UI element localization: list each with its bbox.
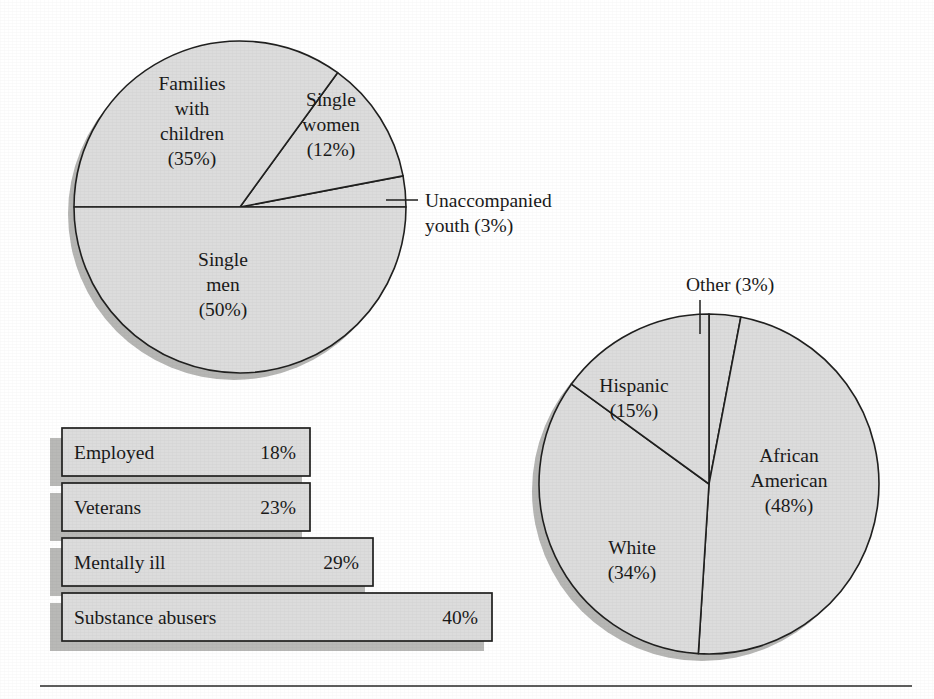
label-line: women: [302, 114, 360, 135]
label-line: Single: [306, 89, 356, 110]
pie-callout-label: Unaccompaniedyouth (3%): [425, 190, 552, 237]
bar-value-label: 40%: [442, 607, 478, 628]
label-line: with: [175, 98, 210, 119]
household-composition-pie: Unaccompaniedyouth (3%)Singlewomen(12%)F…: [68, 41, 552, 380]
pie-slice[interactable]: [74, 207, 406, 373]
bar-category-label: Employed: [74, 442, 154, 463]
label-line: (50%): [199, 299, 248, 321]
label-line: youth (3%): [425, 215, 513, 237]
bar-value-label: 23%: [260, 497, 296, 518]
pie-slices-left: [74, 41, 406, 373]
label-line: (15%): [610, 400, 659, 422]
pie-callout-label: Other (3%): [686, 274, 774, 296]
pie-slices-right: [539, 314, 879, 654]
label-line: African: [759, 445, 819, 466]
figure-canvas: Unaccompaniedyouth (3%)Singlewomen(12%)F…: [0, 0, 934, 699]
label-line: men: [206, 274, 240, 295]
race-ethnicity-pie: Other (3%)AfricanAmerican(48%)White(34%)…: [532, 274, 879, 661]
bar-category-label: Veterans: [74, 497, 141, 518]
bar-category-label: Mentally ill: [74, 552, 166, 573]
figure-root: Unaccompaniedyouth (3%)Singlewomen(12%)F…: [0, 0, 934, 699]
label-line: (12%): [307, 139, 356, 161]
bar-value-label: 29%: [323, 552, 359, 573]
label-line: American: [751, 470, 828, 491]
bar-value-label: 18%: [260, 442, 296, 463]
label-line: Families: [158, 73, 225, 94]
label-line: (34%): [608, 562, 657, 584]
label-line: Single: [198, 249, 248, 270]
label-line: Other (3%): [686, 274, 774, 296]
label-line: (35%): [168, 148, 217, 170]
label-line: Hispanic: [599, 375, 669, 396]
bar-category-label: Substance abusers: [74, 607, 216, 628]
label-line: children: [160, 123, 224, 144]
label-line: (48%): [765, 495, 814, 517]
pie-slice-label: Singlewomen(12%): [302, 89, 360, 161]
label-line: White: [608, 537, 656, 558]
label-line: Unaccompanied: [425, 190, 552, 211]
characteristics-bar-chart: Employed18%Veterans23%Mentally ill29%Sub…: [50, 428, 492, 651]
